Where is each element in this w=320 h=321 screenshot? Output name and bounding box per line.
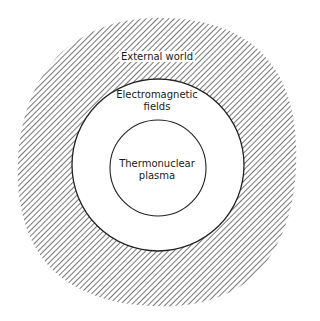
thermonuclear-plasma-line2: plasma bbox=[119, 170, 195, 182]
thermonuclear-plasma-line1: Thermonuclear bbox=[119, 158, 195, 170]
electromagnetic-fields-line2: fields bbox=[116, 101, 198, 113]
thermonuclear-plasma-label: Thermonuclear plasma bbox=[119, 158, 195, 182]
electromagnetic-fields-label: Electromagnetic fields bbox=[116, 89, 198, 113]
electromagnetic-fields-line1: Electromagnetic bbox=[116, 89, 198, 101]
external-world-text: External world bbox=[119, 51, 195, 62]
external-world-label: External world bbox=[119, 51, 195, 63]
